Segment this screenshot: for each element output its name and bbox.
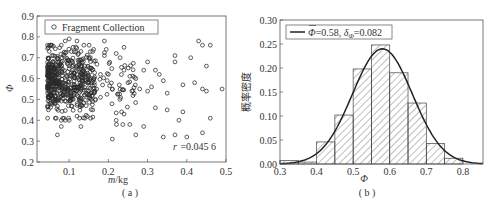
legend-b: Φ=0.58, δΦ=0.082 bbox=[286, 25, 392, 40]
data-point bbox=[75, 39, 79, 43]
data-point bbox=[142, 68, 146, 72]
x-tick-label: 0.6 bbox=[383, 166, 396, 177]
data-point bbox=[67, 37, 71, 41]
histogram-bar bbox=[390, 73, 408, 164]
data-point bbox=[114, 111, 118, 115]
data-point bbox=[208, 43, 212, 47]
data-point bbox=[88, 50, 92, 54]
y-tick-label: 0.5 bbox=[22, 94, 35, 105]
data-point bbox=[98, 77, 102, 81]
data-point bbox=[93, 71, 97, 75]
data-point bbox=[78, 116, 82, 120]
data-point bbox=[75, 114, 79, 118]
y-tick-label: 0.05 bbox=[260, 135, 278, 146]
y-axis-label-a: Φ bbox=[4, 84, 15, 92]
data-point bbox=[205, 89, 209, 93]
legend-label: Fragment Collection bbox=[62, 22, 145, 33]
data-point bbox=[181, 110, 185, 114]
data-point bbox=[138, 87, 142, 91]
x-tick-label: 0.3 bbox=[274, 166, 287, 177]
data-point bbox=[165, 91, 169, 95]
figure-canvas: 0.20.30.40.50.60.70.80.9 0.10.20.30.40.5… bbox=[0, 0, 496, 211]
data-point bbox=[59, 125, 63, 129]
y-tick-label: 0.20 bbox=[260, 63, 278, 74]
data-point bbox=[185, 135, 189, 139]
histogram-bar bbox=[426, 143, 444, 164]
y-tick-label: 0.6 bbox=[22, 73, 35, 84]
x-tick-label: 0.4 bbox=[310, 166, 323, 177]
data-point bbox=[197, 39, 201, 43]
data-point bbox=[201, 43, 205, 47]
data-point bbox=[173, 133, 177, 137]
y-axis-b: 0.000.050.100.150.200.250.30 bbox=[260, 15, 284, 170]
data-point bbox=[104, 48, 108, 52]
data-point bbox=[150, 85, 154, 89]
data-point bbox=[101, 83, 105, 87]
data-point bbox=[115, 123, 119, 127]
data-point bbox=[56, 104, 60, 108]
y-axis-label-b: 概率密度 bbox=[240, 72, 252, 112]
data-point bbox=[102, 76, 106, 80]
y-tick-label: 0.15 bbox=[260, 87, 278, 98]
x-axis-label-b: Φ bbox=[360, 173, 368, 184]
data-point bbox=[99, 73, 103, 77]
data-point bbox=[114, 52, 118, 56]
data-point bbox=[59, 52, 63, 56]
data-point bbox=[84, 104, 88, 108]
x-axis-label-a: m/kg bbox=[108, 174, 128, 185]
histogram-bar bbox=[445, 158, 463, 164]
data-point bbox=[95, 62, 99, 66]
data-point bbox=[177, 118, 181, 122]
data-point bbox=[193, 81, 197, 85]
data-point bbox=[87, 43, 91, 47]
data-point bbox=[154, 68, 158, 72]
data-point bbox=[128, 123, 132, 127]
data-point bbox=[129, 64, 133, 68]
data-point bbox=[123, 64, 127, 68]
data-point bbox=[105, 92, 109, 96]
x-tick-label: 0.8 bbox=[457, 166, 470, 177]
data-point bbox=[201, 87, 205, 91]
data-point bbox=[161, 79, 165, 83]
x-tick-label: 0.3 bbox=[141, 166, 154, 177]
chart-a: 0.20.30.40.50.60.70.80.9 0.10.20.30.40.5… bbox=[4, 11, 232, 200]
data-point bbox=[118, 56, 122, 60]
data-point bbox=[181, 83, 185, 87]
y-tick-label: 0.2 bbox=[22, 157, 35, 168]
x-tick-label: 0.7 bbox=[420, 166, 433, 177]
data-point bbox=[110, 67, 114, 71]
y-tick-label: 0.4 bbox=[22, 115, 35, 126]
data-point bbox=[105, 79, 109, 83]
y-tick-label: 0.9 bbox=[22, 11, 35, 22]
x-tick-label: 0.5 bbox=[347, 166, 360, 177]
data-point bbox=[78, 108, 82, 112]
data-point bbox=[161, 135, 165, 139]
y-tick-label: 0.8 bbox=[22, 31, 35, 42]
correlation-annotation: r =0.045 6 bbox=[173, 141, 216, 152]
data-point bbox=[208, 116, 212, 120]
data-point bbox=[154, 106, 158, 110]
data-point bbox=[99, 95, 103, 99]
data-point bbox=[79, 125, 83, 129]
data-point bbox=[67, 47, 71, 51]
data-point bbox=[134, 133, 138, 137]
histogram-bar bbox=[408, 103, 426, 164]
histogram-bars bbox=[280, 45, 463, 164]
caption-a: ( a ) bbox=[122, 187, 138, 199]
data-point bbox=[146, 89, 150, 93]
data-point bbox=[63, 39, 67, 43]
data-point bbox=[107, 62, 111, 66]
data-point bbox=[201, 131, 205, 135]
data-point bbox=[173, 54, 177, 58]
data-point bbox=[142, 125, 146, 129]
caption-b: ( b ) bbox=[359, 187, 376, 199]
y-tick-label: 0.30 bbox=[260, 15, 278, 26]
data-point bbox=[122, 112, 126, 116]
x-tick-label: 0.1 bbox=[63, 166, 76, 177]
data-point bbox=[205, 64, 209, 68]
data-point bbox=[56, 133, 60, 137]
scatter-points bbox=[46, 37, 224, 141]
data-point bbox=[134, 101, 138, 105]
histogram-bar bbox=[335, 115, 353, 164]
data-point bbox=[46, 116, 50, 120]
